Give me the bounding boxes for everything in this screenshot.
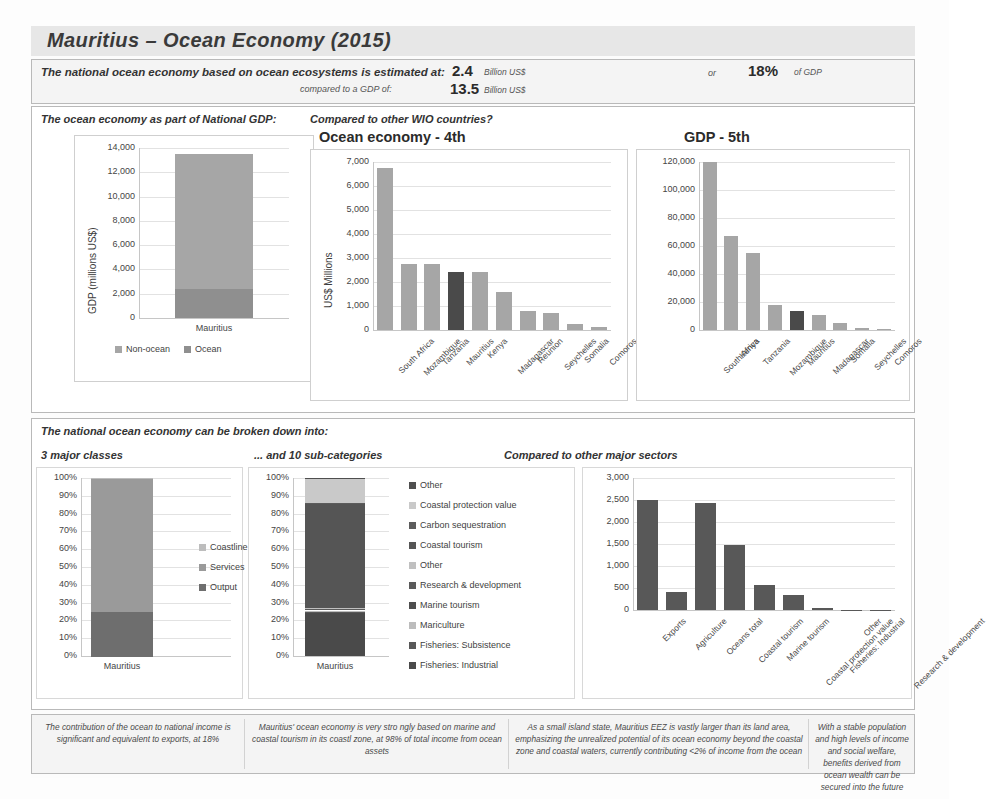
footnote-divider-2 bbox=[508, 719, 509, 769]
footnote-divider-3 bbox=[808, 719, 809, 769]
bar bbox=[841, 610, 862, 611]
y-axis-tick: 7,000 bbox=[325, 156, 369, 166]
y-axis-tick: 100% bbox=[45, 472, 77, 482]
y-axis-tick: 0% bbox=[257, 650, 289, 660]
legend-swatch bbox=[199, 584, 206, 591]
y-axis-tick: 5,000 bbox=[325, 204, 369, 214]
y-axis-tick: 0 bbox=[591, 604, 629, 614]
bar-segment bbox=[175, 289, 253, 318]
chart-legend-item: Output bbox=[199, 582, 237, 592]
legend-swatch bbox=[409, 662, 416, 669]
lower-panel: The national ocean economy can be broken… bbox=[31, 418, 915, 710]
legend-label: Coastal protection value bbox=[420, 500, 517, 510]
y-axis-tick: 50% bbox=[257, 561, 289, 571]
bar bbox=[768, 305, 782, 330]
y-axis-tick: 10,000 bbox=[89, 191, 135, 201]
x-axis-line bbox=[699, 330, 895, 331]
y-axis-tick: 1,500 bbox=[591, 538, 629, 548]
x-axis-label: Tanzania bbox=[761, 336, 792, 367]
y-axis-tick: 20,000 bbox=[649, 296, 695, 306]
chart-c-title: GDP - 5th bbox=[684, 129, 750, 145]
chart-major-sectors: 05001,0001,5002,0002,5003,000ExportsAgri… bbox=[582, 467, 912, 699]
y-axis-line bbox=[293, 478, 294, 656]
summary-gdp-unit: Billion US$ bbox=[484, 85, 526, 95]
bar bbox=[637, 500, 658, 610]
x-axis-label: Exports bbox=[660, 616, 687, 643]
y-axis-tick: 80% bbox=[45, 508, 77, 518]
chart-legend-item: Carbon sequestration bbox=[409, 520, 506, 530]
y-axis-title: US$ Millions bbox=[323, 252, 334, 308]
x-axis-line bbox=[373, 330, 611, 331]
chart-gdp-stacked: 02,0004,0006,0008,00010,00012,00014,000G… bbox=[74, 135, 314, 382]
gridline bbox=[373, 162, 611, 163]
footnote-1: The contribution of the ocean to nationa… bbox=[38, 721, 238, 745]
legend-label: Other bbox=[420, 480, 443, 490]
summary-percent: 18% bbox=[748, 62, 778, 79]
x-axis-label: Kenya bbox=[737, 336, 761, 360]
legend-label: Ocean bbox=[195, 344, 222, 354]
legend-label: Research & development bbox=[420, 580, 521, 590]
gridline bbox=[373, 258, 611, 259]
legend-label: Non-ocean bbox=[126, 344, 170, 354]
gridline bbox=[633, 544, 895, 545]
bar-segment bbox=[91, 479, 153, 612]
bar bbox=[401, 264, 417, 330]
y-axis-line bbox=[373, 162, 374, 330]
bar bbox=[812, 608, 833, 610]
bar bbox=[833, 323, 847, 330]
y-axis-tick: 100,000 bbox=[649, 184, 695, 194]
bar bbox=[543, 313, 559, 330]
y-axis-tick: 90% bbox=[45, 490, 77, 500]
y-axis-tick: 6,000 bbox=[325, 180, 369, 190]
y-axis-tick: 90% bbox=[257, 490, 289, 500]
chart-legend-item: Services bbox=[199, 562, 245, 572]
gridline bbox=[373, 210, 611, 211]
chart-legend-item: Coastline bbox=[199, 542, 248, 552]
gridline bbox=[699, 218, 895, 219]
y-axis-line bbox=[699, 162, 700, 330]
legend-label: Coastal tourism bbox=[420, 540, 483, 550]
y-axis-line bbox=[139, 148, 140, 318]
y-axis-tick: 12,000 bbox=[89, 166, 135, 176]
y-axis-tick: 40,000 bbox=[649, 268, 695, 278]
y-axis-tick: 20% bbox=[257, 614, 289, 624]
bar-segment bbox=[91, 612, 153, 657]
bar bbox=[870, 610, 891, 611]
y-axis-tick: 0 bbox=[649, 324, 695, 334]
gridline bbox=[633, 522, 895, 523]
chart-legend-item: Research & development bbox=[409, 580, 521, 590]
chart-ten-subcategories: 0%10%20%30%40%50%60%70%80%90%100%Mauriti… bbox=[248, 467, 575, 699]
bar-segment bbox=[175, 154, 253, 289]
bar-segment bbox=[305, 479, 365, 503]
bar-segment bbox=[91, 478, 153, 479]
y-axis-tick: 60% bbox=[257, 543, 289, 553]
chart-legend-item: Mariculture bbox=[409, 620, 465, 630]
y-axis-tick: 10% bbox=[257, 632, 289, 642]
gridline bbox=[373, 234, 611, 235]
y-axis-tick: 30% bbox=[45, 597, 77, 607]
footnote-3: As a small island state, Mauritius EEZ i… bbox=[514, 721, 804, 757]
bar-segment bbox=[305, 503, 365, 608]
legend-swatch bbox=[409, 542, 416, 549]
bar-segment bbox=[305, 612, 365, 613]
y-axis-tick: 70% bbox=[257, 525, 289, 535]
label-three-classes: 3 major classes bbox=[41, 449, 123, 461]
y-axis-tick: 50% bbox=[45, 561, 77, 571]
x-axis-label: Research & development bbox=[912, 616, 987, 691]
y-axis-tick: 0 bbox=[325, 324, 369, 334]
bar bbox=[666, 592, 687, 610]
bar-segment bbox=[305, 612, 365, 656]
bar-segment bbox=[305, 611, 365, 612]
legend-label: Services bbox=[210, 562, 245, 572]
y-axis-tick: 120,000 bbox=[649, 156, 695, 166]
legend-label: Coastline bbox=[210, 542, 248, 552]
y-axis-tick: 500 bbox=[591, 582, 629, 592]
label-wio-compare: Compared to other WIO countries? bbox=[310, 113, 493, 125]
gridline bbox=[699, 162, 895, 163]
legend-swatch bbox=[409, 642, 416, 649]
bar bbox=[724, 545, 745, 610]
gridline bbox=[633, 500, 895, 501]
x-axis-label: Mauritius bbox=[285, 661, 385, 671]
y-axis-tick: 40% bbox=[257, 579, 289, 589]
summary-gdp-value: 13.5 bbox=[450, 80, 479, 97]
